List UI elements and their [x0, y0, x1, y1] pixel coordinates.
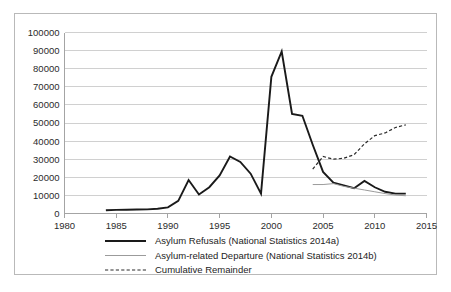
- x-axis-tick-label: 1980: [54, 220, 75, 231]
- chart-canvas: 0100002000030000400005000060000700008000…: [15, 14, 438, 276]
- y-axis-tick-label: 40000: [33, 136, 59, 147]
- legend-label: Cumulative Remainder: [155, 264, 252, 275]
- y-axis-tick-label: 60000: [33, 99, 59, 110]
- y-axis-tick-label: 100000: [28, 27, 60, 38]
- x-axis-tick-label: 2015: [416, 220, 437, 231]
- y-axis-tick-label: 90000: [33, 45, 59, 56]
- x-axis-tick-label: 2010: [364, 220, 385, 231]
- data-series: [106, 52, 406, 211]
- series-line-1: [106, 52, 406, 211]
- x-axis-tick-label: 1990: [157, 220, 178, 231]
- x-axis-tick-label: 2000: [261, 220, 282, 231]
- gridlines: [65, 33, 427, 196]
- y-axis-tick-label: 70000: [33, 81, 59, 92]
- y-axis-tick-label: 20000: [33, 172, 59, 183]
- y-axis-tick-label: 10000: [33, 190, 59, 201]
- series-line-3: [313, 125, 406, 169]
- chart-legend: Asylum Refusals (National Statistics 201…: [105, 235, 377, 275]
- chart-figure: 0100002000030000400005000060000700008000…: [14, 13, 437, 275]
- legend-label: Asylum-related Departure (National Stati…: [155, 250, 377, 261]
- x-axis-tick-labels: 19801985199019952000200520102015: [54, 214, 437, 231]
- y-axis-tick-label: 0: [54, 208, 59, 219]
- y-axis-tick-label: 80000: [33, 63, 59, 74]
- y-axis-tick-label: 30000: [33, 154, 59, 165]
- x-axis-tick-label: 1985: [106, 220, 127, 231]
- y-axis-tick-labels: 0100002000030000400005000060000700008000…: [28, 27, 60, 219]
- x-axis-tick-label: 2005: [313, 220, 334, 231]
- legend-label: Asylum Refusals (National Statistics 201…: [155, 235, 339, 246]
- y-axis-tick-label: 50000: [33, 117, 59, 128]
- x-axis-tick-label: 1995: [209, 220, 230, 231]
